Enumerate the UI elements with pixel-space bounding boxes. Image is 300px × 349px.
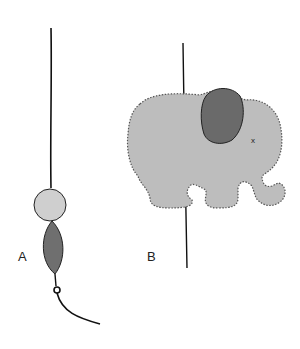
elephant-ear [201, 89, 243, 144]
label-b: B [147, 249, 156, 264]
label-a: A [18, 249, 27, 264]
string-a [51, 28, 52, 188]
panel-b: x [127, 43, 285, 268]
string-a-lower [55, 274, 56, 286]
leaf-bead [43, 221, 63, 274]
round-bead [34, 189, 66, 221]
string-tail [57, 293, 100, 324]
knot [54, 287, 60, 293]
illustration-canvas: x [0, 0, 300, 349]
panel-a [34, 28, 100, 324]
elephant-eye: x [251, 136, 255, 145]
